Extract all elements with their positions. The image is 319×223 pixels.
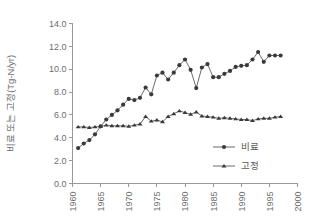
data-point [273, 53, 277, 57]
data-point [171, 112, 176, 115]
data-point [93, 132, 97, 136]
y-tick-label: 14.0 [49, 19, 67, 29]
legend-item[interactable]: 비료 [213, 141, 259, 152]
data-point [189, 68, 193, 72]
y-axis-label: 비료 또는 고정(Tg-N/yr) [5, 55, 16, 152]
data-point [82, 141, 86, 145]
x-tick-label: 1965 [96, 192, 106, 212]
data-point [160, 71, 164, 75]
data-point [110, 113, 114, 117]
legend-label: 비료 [241, 141, 259, 152]
data-point [228, 69, 232, 73]
legend-marker-circle [222, 145, 226, 149]
data-point [121, 103, 125, 107]
data-point [87, 138, 91, 142]
legend: 비료고정 [213, 141, 259, 171]
x-tick-label: 1990 [237, 192, 247, 212]
data-point [211, 75, 215, 79]
data-point [127, 97, 131, 101]
y-axis: 0.02.04.06.08.010.012.014.0 [49, 19, 73, 189]
axes-group [73, 24, 298, 184]
data-point [194, 86, 198, 90]
data-point [222, 116, 227, 119]
data-point [200, 65, 204, 69]
data-point [278, 115, 283, 118]
legend-item[interactable]: 고정 [213, 160, 259, 171]
data-point [144, 85, 148, 89]
data-point [239, 64, 243, 68]
legend-label: 고정 [241, 160, 259, 171]
y-tick-label: 4.0 [54, 133, 67, 143]
y-tick-label: 0.0 [54, 179, 67, 189]
x-tick-label: 1985 [209, 192, 219, 212]
data-point [154, 118, 159, 121]
y-tick-label: 6.0 [54, 110, 67, 120]
data-point [279, 53, 283, 57]
x-tick-label: 1975 [152, 192, 162, 212]
data-point [137, 122, 142, 125]
data-point [177, 63, 181, 67]
data-point [115, 108, 119, 112]
data-point [250, 57, 254, 61]
data-point [138, 96, 142, 100]
data-point [267, 53, 271, 57]
series-circle [76, 50, 283, 150]
data-point [177, 109, 182, 112]
data-point [149, 92, 153, 96]
data-point [256, 50, 260, 54]
chart-container: 0.02.04.06.08.010.012.014.01960196519701… [0, 0, 319, 223]
data-point [166, 115, 171, 118]
data-point [245, 63, 249, 67]
data-point [234, 65, 238, 69]
data-point [222, 72, 226, 76]
x-axis: 196019651970197519801985199019952000 [68, 184, 303, 212]
y-tick-label: 8.0 [54, 87, 67, 97]
x-tick-label: 2000 [293, 192, 303, 212]
data-point [132, 98, 136, 102]
data-point [76, 146, 80, 150]
data-point [104, 123, 109, 126]
data-point [172, 71, 176, 75]
x-tick-label: 1960 [68, 192, 78, 212]
axis-spines [73, 24, 298, 184]
data-point [262, 60, 266, 64]
y-tick-label: 12.0 [49, 42, 67, 52]
data-point [104, 117, 108, 121]
y-tick-label: 2.0 [54, 156, 67, 166]
data-point [143, 115, 148, 118]
data-point [183, 57, 187, 61]
data-point [194, 110, 199, 113]
line-chart: 0.02.04.06.08.010.012.014.01960196519701… [0, 0, 319, 223]
x-tick-label: 1970 [124, 192, 134, 212]
data-point [217, 75, 221, 79]
data-point [205, 62, 209, 66]
series-line-1 [78, 111, 281, 128]
y-tick-label: 10.0 [49, 64, 67, 74]
x-tick-label: 1980 [180, 192, 190, 212]
x-tick-label: 1995 [265, 192, 275, 212]
data-point [166, 77, 170, 81]
data-point [155, 73, 159, 77]
